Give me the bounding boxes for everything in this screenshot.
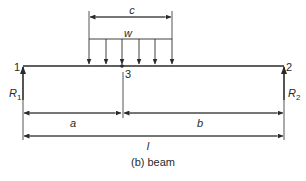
dimension-b-label: b bbox=[197, 117, 203, 129]
node-1-label: 1 bbox=[14, 61, 20, 73]
node-3-point bbox=[120, 64, 124, 68]
figure-caption: (b) beam bbox=[0, 156, 306, 168]
reaction-r2-label: R2 bbox=[288, 87, 301, 102]
beam-diagram: w c 1 R1 2 R2 3 a b l bbox=[0, 0, 306, 181]
reaction-r1-label: R1 bbox=[9, 87, 22, 102]
dimension-a-label: a bbox=[70, 117, 76, 129]
node-2-label: 2 bbox=[286, 61, 292, 73]
distributed-load bbox=[89, 39, 172, 64]
dimension-c-label: c bbox=[129, 4, 135, 16]
dimension-l-label: l bbox=[147, 140, 150, 152]
node-3-label: 3 bbox=[125, 68, 131, 80]
load-intensity-label: w bbox=[124, 27, 133, 39]
